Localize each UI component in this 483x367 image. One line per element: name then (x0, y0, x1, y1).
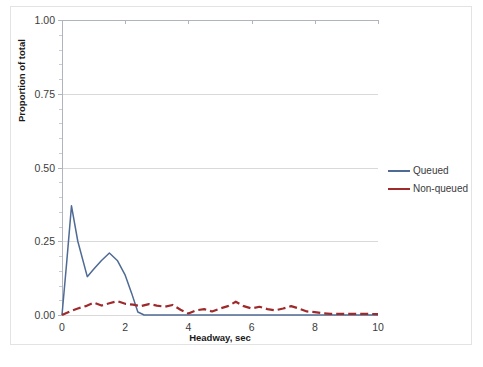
plot-area (62, 20, 378, 315)
y-tick-label: 0.50 (21, 163, 55, 173)
legend-label: Non-queued (413, 181, 468, 197)
series-line-queued (62, 206, 378, 315)
x-tick (378, 20, 379, 24)
legend-swatch (388, 188, 410, 190)
y-tick-label: 1.00 (21, 15, 55, 25)
y-tick-label: 0.25 (21, 236, 55, 246)
y-tick-label: 0.75 (21, 89, 55, 99)
series-container (62, 20, 378, 315)
y-tick (58, 315, 62, 316)
series-line-non-queued (62, 301, 378, 315)
y-tick-label: 0.00 (21, 310, 55, 320)
legend-label: Queued (413, 163, 449, 179)
chart-figure: Proportion of total 0.000.250.500.751.00… (0, 0, 483, 367)
y-axis-title: Proportion of total (16, 39, 27, 122)
x-axis-title: Headway, sec (62, 332, 378, 343)
legend-swatch (388, 170, 410, 172)
